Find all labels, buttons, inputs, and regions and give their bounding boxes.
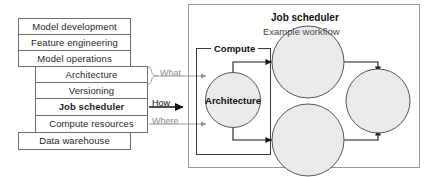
compute-group-label: Compute xyxy=(211,44,258,54)
panel-subtitle: Example workflow xyxy=(263,27,340,37)
connector-layer xyxy=(0,0,429,177)
panel-title: Job scheduler xyxy=(271,13,339,23)
edge-architecture-to-node-a xyxy=(233,62,272,73)
node-workflow-c[interactable] xyxy=(346,69,410,133)
connector-label-what: What xyxy=(160,69,181,78)
connector-label-how: How xyxy=(152,99,170,108)
connector-label-where: Where xyxy=(152,117,179,126)
node-workflow-b[interactable] xyxy=(272,104,344,176)
brace-what xyxy=(148,67,158,84)
node-architecture-label: Architecture xyxy=(196,96,270,106)
edge-architecture-to-node-b xyxy=(233,128,272,140)
diagram-root: Model development Feature engineering Mo… xyxy=(0,0,429,177)
